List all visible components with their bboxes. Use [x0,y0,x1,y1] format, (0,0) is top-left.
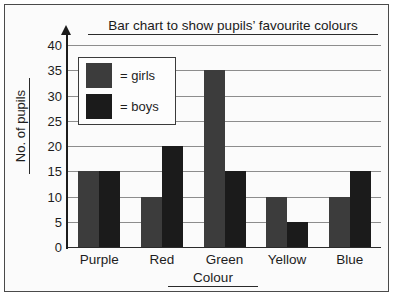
bar-yellow-girls [266,197,287,248]
bar-green-girls [204,70,225,247]
y-tick-label: 15 [36,165,62,178]
bar-yellow-boys [287,222,308,247]
bar-blue-boys [350,171,371,247]
x-axis-baseline [68,247,381,248]
y-tick-label: 10 [36,191,62,204]
y-tick-label: 30 [36,90,62,103]
legend-swatch-boys-icon [86,94,112,119]
y-axis-tick-group: 4035302520151050 [30,45,62,247]
legend-label-boys: = boys [120,100,159,114]
x-tick-label-yellow: Yellow [256,252,319,267]
y-axis-title: No. of pupils [14,78,30,174]
bar-red-girls [141,197,162,248]
bar-blue-girls [329,197,350,248]
legend-swatch-girls-icon [86,63,112,88]
y-tick-label: 40 [36,39,62,52]
bar-purple-girls [78,171,99,247]
bar-chart: Bar chart to show pupils’ favourite colo… [0,0,397,306]
y-tick-label: 25 [36,115,62,128]
x-tick-label-red: Red [131,252,194,267]
chart-legend: = girls = boys [78,57,176,125]
gridline [68,45,381,46]
y-tick-label: 20 [36,140,62,153]
x-tick-label-purple: Purple [68,252,131,267]
chart-title: Bar chart to show pupils’ favourite colo… [88,18,378,35]
y-tick-label: 5 [36,216,62,229]
legend-item-boys: = boys [86,93,159,120]
bar-red-boys [162,146,183,247]
legend-item-girls: = girls [86,62,155,89]
x-tick-label-green: Green [193,252,256,267]
gridline [68,146,381,147]
legend-label-girls: = girls [120,69,155,83]
bar-purple-boys [99,171,120,247]
x-tick-label-blue: Blue [318,252,381,267]
y-tick-label: 0 [36,241,62,254]
bar-green-boys [225,171,246,247]
x-axis-title: Colour [168,270,258,287]
y-tick-label: 35 [36,64,62,77]
